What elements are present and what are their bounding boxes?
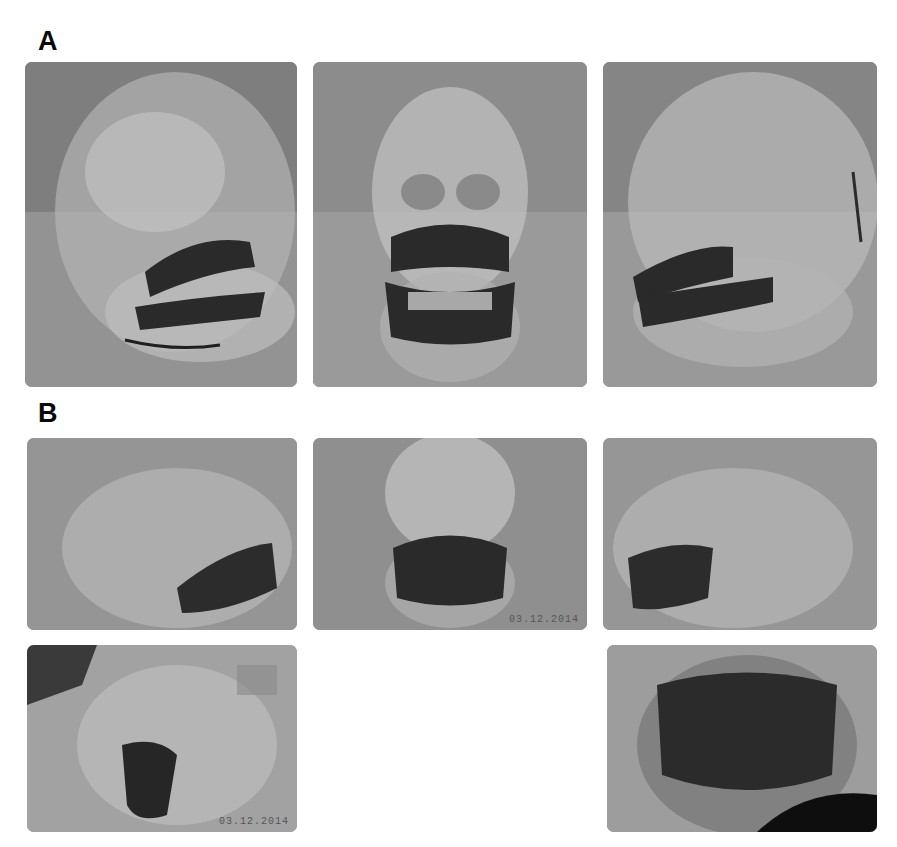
photo-b3-right-lateral bbox=[603, 438, 877, 630]
photo-a1-left-oblique bbox=[25, 62, 297, 387]
panel-label-a: A bbox=[38, 26, 58, 57]
panel-label-b: B bbox=[38, 398, 58, 429]
photo-a2-frontal bbox=[313, 62, 587, 387]
photo-b2-frontal-lower: 03.12.2014 bbox=[313, 438, 587, 630]
photo-b5-closeup-frontal bbox=[607, 645, 877, 832]
photo-b1-left-lateral bbox=[27, 438, 297, 630]
photo-timestamp: 03.12.2014 bbox=[219, 816, 289, 827]
photo-timestamp: 03.12.2014 bbox=[509, 614, 579, 625]
photo-a3-right-oblique bbox=[603, 62, 877, 387]
photo-b4-closeup-oblique: 03.12.2014 bbox=[27, 645, 297, 832]
